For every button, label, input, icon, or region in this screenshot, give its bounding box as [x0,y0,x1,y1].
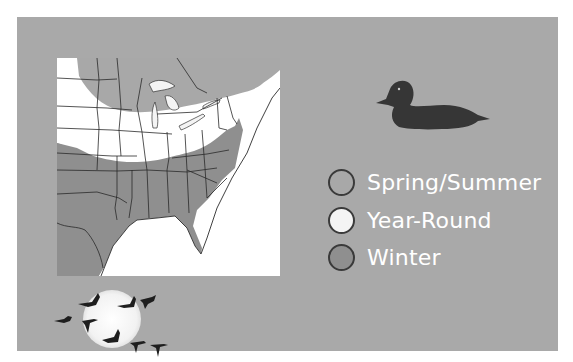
geese-flock-moon-icon [52,285,182,357]
spring-summer-swatch-icon [328,169,355,196]
eastern-us-map [57,58,280,276]
winter-swatch-icon [328,244,355,271]
legend: Spring/Summer Year-Round Winter [328,164,541,277]
range-map [57,58,280,276]
range-map-panel: Spring/Summer Year-Round Winter [17,17,558,351]
legend-item-year-round: Year-Round [328,202,541,240]
legend-label: Spring/Summer [367,170,541,195]
legend-item-winter: Winter [328,239,541,277]
legend-label: Year-Round [367,208,492,233]
year-round-swatch-icon [328,207,355,234]
legend-item-spring-summer: Spring/Summer [328,164,541,202]
legend-label: Winter [367,245,441,270]
duck-silhouette-icon [372,75,497,135]
